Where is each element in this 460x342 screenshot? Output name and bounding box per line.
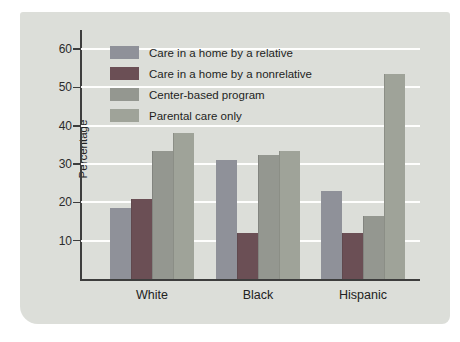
legend-swatch-4: [110, 109, 139, 122]
legend-label-1: Care in a home by a relative: [149, 47, 293, 59]
bar-white-series-4: [173, 133, 194, 279]
figure-panel: Percentage 102030405060 WhiteBlackHispan…: [20, 12, 450, 324]
bar-black-series-3: [258, 155, 279, 280]
bar-hispanic-series-4: [384, 74, 405, 279]
bar-black-series-1: [216, 160, 237, 279]
y-tick-label-30: 30: [40, 157, 72, 171]
bar-white-series-3: [152, 151, 173, 279]
bar-black-series-4: [279, 151, 300, 279]
legend-label-2: Care in a home by a nonrelative: [149, 68, 312, 80]
y-tick-20: [73, 202, 81, 204]
bar-white-series-2: [131, 199, 152, 279]
bar-hispanic-series-2: [342, 233, 363, 279]
y-tick-30: [73, 163, 81, 165]
bar-white-series-1: [110, 208, 131, 279]
legend-row-3: Center-based program: [110, 88, 312, 101]
gridline-40: [81, 125, 420, 127]
y-tick-label-40: 40: [40, 119, 72, 133]
y-tick-label-10: 10: [40, 234, 72, 248]
legend-row-4: Parental care only: [110, 109, 312, 122]
y-tick-label-50: 50: [40, 80, 72, 94]
bar-black-series-2: [237, 233, 258, 279]
bar-hispanic-series-3: [363, 216, 384, 279]
y-tick-label-60: 60: [40, 42, 72, 56]
legend-row-2: Care in a home by a nonrelative: [110, 67, 312, 80]
plot-area: Percentage 102030405060 WhiteBlackHispan…: [80, 30, 420, 279]
category-label-white: White: [97, 288, 207, 302]
legend-label-3: Center-based program: [149, 89, 265, 101]
y-tick-60: [73, 48, 81, 50]
legend-row-1: Care in a home by a relative: [110, 46, 312, 59]
legend-swatch-3: [110, 88, 139, 101]
bar-hispanic-series-1: [321, 191, 342, 279]
legend-swatch-2: [110, 67, 139, 80]
y-tick-10: [73, 240, 81, 242]
y-tick-50: [73, 87, 81, 89]
gridline-30: [81, 163, 420, 165]
legend-swatch-1: [110, 46, 139, 59]
y-tick-40: [73, 125, 81, 127]
y-tick-label-20: 20: [40, 195, 72, 209]
chart-legend: Care in a home by a relativeCare in a ho…: [110, 46, 312, 122]
x-axis-line: [80, 279, 420, 281]
category-label-black: Black: [203, 288, 313, 302]
category-label-hispanic: Hispanic: [308, 288, 418, 302]
legend-label-4: Parental care only: [149, 110, 242, 122]
